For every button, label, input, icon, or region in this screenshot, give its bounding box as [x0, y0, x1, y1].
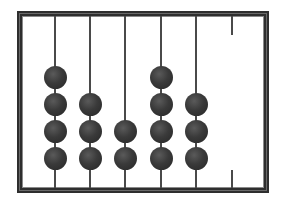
bead	[44, 66, 67, 89]
bead	[44, 93, 67, 116]
bead	[185, 147, 208, 170]
bead	[185, 93, 208, 116]
bead	[150, 120, 173, 143]
bead	[44, 147, 67, 170]
rod-6-bottom-stub	[231, 170, 233, 188]
bead	[79, 120, 102, 143]
bead	[150, 147, 173, 170]
bead	[79, 93, 102, 116]
bead	[114, 120, 137, 143]
bead	[79, 147, 102, 170]
bead	[185, 120, 208, 143]
bead	[44, 120, 67, 143]
bead	[150, 93, 173, 116]
rod-6-top-stub	[231, 16, 233, 35]
bead	[150, 66, 173, 89]
bead	[114, 147, 137, 170]
